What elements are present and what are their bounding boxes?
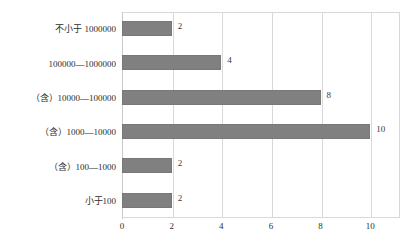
x-tick-label: 4 [209,220,233,232]
bar-chart: 不小于 1000000100000—1000000（含）10000—100000… [0,0,413,244]
value-axis-tick-labels: 0246810 [122,220,400,236]
bar-value-label: 10 [376,123,385,135]
bar-value-label: 4 [227,54,232,66]
category-axis-labels: 不小于 1000000100000—1000000（含）10000—100000… [0,12,116,218]
x-tick-label: 0 [110,220,134,232]
bar-row: 2 [122,149,400,183]
bar[interactable] [122,193,172,208]
bar-value-label: 8 [327,89,332,101]
bar-value-label: 2 [178,20,183,32]
category-label: （含）100—1000 [0,161,116,173]
bar-row: 10 [122,115,400,149]
category-label: 小于100 [0,195,116,207]
bar-value-label: 2 [178,157,183,169]
x-tick-label: 6 [259,220,283,232]
bars-layer: 2481022 [122,12,400,218]
x-tick-label: 2 [160,220,184,232]
bar-row: 8 [122,81,400,115]
bar[interactable] [122,124,370,139]
category-label: 100000—1000000 [0,58,116,70]
bar-row: 2 [122,184,400,218]
bar-row: 2 [122,12,400,46]
category-label: 不小于 1000000 [0,23,116,35]
bar[interactable] [122,21,172,36]
category-label: （含）1000—10000 [0,126,116,138]
bar-value-label: 2 [178,192,183,204]
bar[interactable] [122,90,321,105]
bar-row: 4 [122,46,400,80]
x-tick-label: 10 [358,220,382,232]
category-label: （含）10000—100000 [0,92,116,104]
bar[interactable] [122,158,172,173]
bar[interactable] [122,55,221,70]
x-tick-label: 8 [309,220,333,232]
